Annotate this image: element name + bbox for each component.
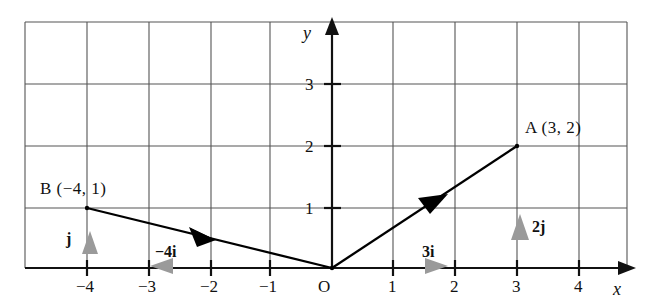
vector-diagram-figure: y x O 3 2 1 −4 −3 −2 −1 1 2 3 4 A (3, 2)…: [0, 0, 648, 305]
x-axis-label: x: [613, 280, 621, 298]
component-vector-minus4i-arrow: [150, 258, 173, 274]
x-tick-label-4: 4: [574, 278, 583, 295]
point-label-a: A (3, 2): [525, 119, 581, 136]
vector-label-2j: 2j: [532, 219, 545, 235]
component-vector-2j-arrow: [511, 214, 529, 240]
x-tick-label-3: 3: [512, 278, 521, 295]
x-tick-label-minus-2: −2: [200, 278, 218, 295]
origin-label: O: [318, 278, 330, 295]
y-axis-label: y: [303, 24, 311, 42]
point-marker-A: [515, 144, 519, 148]
x-tick-label-2: 2: [450, 278, 459, 295]
y-tick-label-2: 2: [305, 138, 314, 155]
point-marker-B: [85, 206, 89, 210]
vector-OA-arrowhead: [418, 194, 448, 214]
x-tick-label-1: 1: [388, 278, 397, 295]
vector-BO-arrowhead-fill: [189, 227, 216, 247]
point-marker-O: [330, 266, 334, 270]
point-label-b: B (−4, 1): [40, 180, 107, 197]
component-vector-j-arrow: [82, 231, 98, 254]
x-tick-label-minus-3: −3: [138, 278, 156, 295]
component-vector-3i-arrow: [425, 258, 448, 274]
vector-lines: [87, 146, 517, 268]
y-axis-arrowhead: [325, 17, 339, 35]
point-markers: [85, 144, 519, 270]
y-tick-label-3: 3: [305, 76, 314, 93]
vector-label-minus-4i: −4i: [155, 244, 177, 260]
coordinate-plot: [0, 0, 648, 305]
vector-label-3i: 3i: [422, 244, 434, 260]
x-tick-label-minus-4: −4: [76, 278, 94, 295]
y-tick-label-1: 1: [305, 200, 314, 217]
vector-label-j: j: [66, 231, 71, 247]
x-tick-label-minus-1: −1: [259, 278, 277, 295]
